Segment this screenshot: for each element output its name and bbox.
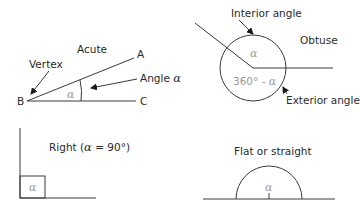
flat-alpha: α — [265, 181, 273, 194]
right-title: Right (α = 90°) — [49, 140, 130, 154]
acute-alpha: α — [67, 88, 75, 101]
exterior-label: Exterior angle — [286, 94, 360, 106]
right-alpha: α — [29, 181, 37, 194]
exterior-arrow — [283, 87, 287, 94]
angle-types-diagram: Acute Vertex A B C α Angle α Interior an… — [0, 0, 360, 209]
angle-arrow — [91, 79, 137, 88]
interior-arrow — [239, 20, 253, 34]
right-angle-figure: α Right (α = 90°) — [20, 128, 130, 198]
interior-alpha: α — [250, 47, 258, 60]
obtuse-title: Obtuse — [300, 34, 338, 46]
flat-angle-figure: α Flat or straight — [203, 145, 335, 199]
point-a-label: A — [137, 48, 145, 60]
acute-angle-figure: Acute Vertex A B C α Angle α — [17, 43, 181, 107]
point-b-label: B — [17, 95, 24, 107]
obtuse-angle-figure: Interior angle Obtuse α 360° - α Exterio… — [195, 7, 360, 106]
point-c-label: C — [140, 95, 147, 107]
exterior-value: 360° - α — [233, 75, 277, 88]
flat-title: Flat or straight — [234, 145, 312, 157]
angle-arc — [80, 80, 82, 101]
vertex-label: Vertex — [29, 58, 63, 70]
interior-label: Interior angle — [231, 7, 302, 19]
acute-title: Acute — [77, 43, 107, 55]
vertex-arrow — [31, 71, 49, 94]
angle-alpha-label: Angle α — [140, 71, 181, 85]
